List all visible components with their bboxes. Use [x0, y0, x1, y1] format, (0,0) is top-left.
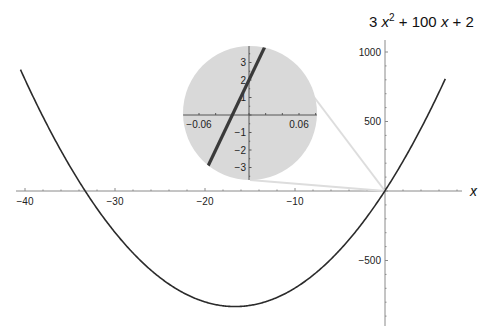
chart-title: 3 x2 + 100 x + 2: [369, 12, 474, 30]
chart-canvas: −40−30−20−10 x 1000500−500 3 x2 + 100 x …: [0, 0, 493, 335]
x-tick-label: −30: [107, 196, 124, 207]
x-axis-label: x: [469, 183, 478, 199]
inset-y-tick-label: −1: [235, 127, 247, 138]
inset-x-tick-label: 0.06: [289, 119, 309, 130]
x-tick-label: −20: [197, 196, 214, 207]
inset-y-tick-label: 3: [240, 57, 246, 68]
inset-background: [183, 46, 317, 180]
inset-y-tick-label: −3: [235, 162, 247, 173]
inset-x-tick-label: −0.06: [186, 119, 212, 130]
x-axis: −40−30−20−10 x: [16, 183, 478, 207]
zoom-inset: −0.060.06321−1−2−3: [182, 45, 317, 182]
y-axis-ticks: 1000500−500: [358, 47, 388, 317]
inset-y-tick-label: −2: [235, 145, 247, 156]
y-tick-label: 1000: [359, 47, 382, 58]
y-tick-label: −500: [358, 255, 381, 266]
y-tick-label: 500: [364, 116, 381, 127]
x-tick-label: −10: [287, 196, 304, 207]
y-axis: 1000500−500: [358, 40, 388, 326]
x-tick-label: −40: [17, 196, 34, 207]
